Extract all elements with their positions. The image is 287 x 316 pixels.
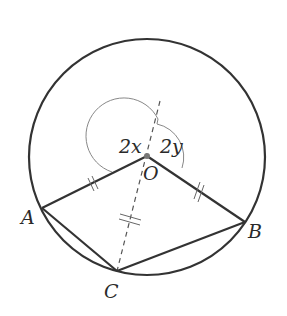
- segment-AC: [42, 208, 117, 271]
- tick-marks-OC: [119, 214, 141, 225]
- dashed-line-OC: [117, 101, 160, 271]
- angle-label-2y: 2y: [160, 137, 183, 156]
- point-label-B: B: [248, 222, 262, 241]
- segment-BC: [117, 222, 245, 271]
- point-label-O: O: [143, 164, 159, 183]
- diagram-graphic: [0, 0, 287, 316]
- point-label-A: A: [21, 208, 35, 227]
- center-point-O: [144, 153, 150, 159]
- point-label-C: C: [104, 282, 119, 301]
- circle-diagram: 2x 2y O A B C: [0, 0, 287, 316]
- angle-label-2x: 2x: [119, 137, 142, 156]
- segment-OB: [147, 156, 245, 222]
